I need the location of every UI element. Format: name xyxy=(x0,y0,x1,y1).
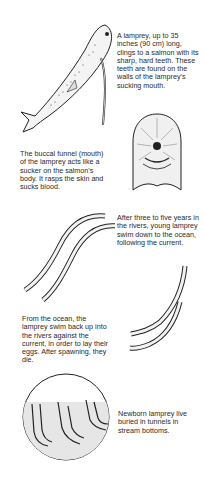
caption-salmon: A lamprey, up to 35 inches (90 cm) long,… xyxy=(117,32,199,90)
caption-newborn: Newborn lamprey live buried in tunnels i… xyxy=(118,410,200,435)
young-lampreys-downstream-illustration xyxy=(15,210,115,305)
caption-upstream: From the ocean, the lamprey swim back up… xyxy=(22,315,110,365)
buccal-funnel-illustration xyxy=(127,112,187,194)
caption-buccal-funnel: The buccal funnel (mouth) of the lamprey… xyxy=(20,150,104,191)
caption-downstream: After three to five years in the rivers,… xyxy=(117,214,201,247)
salmon-with-lamprey-illustration xyxy=(15,20,115,135)
newborn-lampreys-tunnels-illustration xyxy=(20,372,112,462)
adult-lampreys-upstream-illustration xyxy=(125,262,195,354)
